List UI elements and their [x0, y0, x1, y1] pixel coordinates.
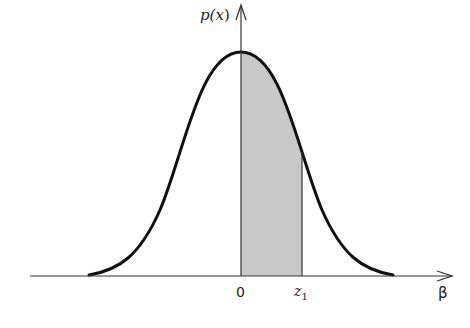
distribution-diagram	[0, 0, 470, 328]
shaded-area	[241, 52, 302, 276]
y-label-x: x	[215, 6, 223, 24]
tick-label-zero: 0	[236, 284, 245, 300]
tick-label-z1: z1	[294, 283, 308, 302]
z-subscript: 1	[301, 291, 307, 302]
y-label-p: p(	[200, 6, 215, 24]
x-axis-label: β	[438, 284, 448, 302]
y-axis-label: p(x)	[200, 6, 230, 24]
y-label-close: )	[224, 6, 230, 24]
